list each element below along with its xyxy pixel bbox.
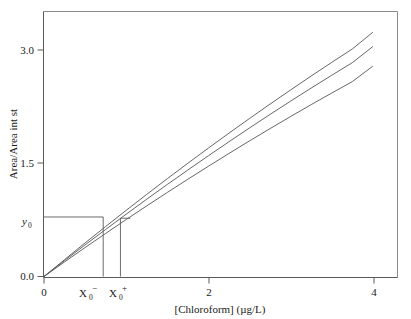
y-axis-title: Area/Area int st bbox=[7, 109, 19, 179]
x-axis-title: [Chloroform] (µg/L) bbox=[175, 303, 266, 316]
y0-tick-label: y bbox=[21, 215, 27, 227]
x0-minus-label: X bbox=[79, 287, 87, 299]
x-tick-label-4: 4 bbox=[371, 286, 377, 298]
x-tick-label-2: 2 bbox=[206, 286, 212, 298]
calibration-curve-chart: 3.0 1.5 0.0 y 0 0 2 4 X 0 − X 0 + [Chlor… bbox=[0, 0, 411, 319]
x-tick-label-0: 0 bbox=[41, 286, 47, 298]
y-tick-label-0.0: 0.0 bbox=[20, 270, 34, 282]
x0-plus-label-subscript: 0 bbox=[119, 293, 123, 302]
y0-tick-label-subscript: 0 bbox=[28, 221, 32, 230]
y-tick-label-1.5: 1.5 bbox=[20, 157, 34, 169]
x0-plus-label: X bbox=[109, 287, 117, 299]
y-tick-label-3.0: 3.0 bbox=[20, 44, 34, 56]
x0-plus-label-superscript: + bbox=[122, 283, 127, 293]
x0-minus-label-superscript: − bbox=[92, 283, 97, 293]
chart-background bbox=[0, 0, 411, 319]
chart-figure: 3.0 1.5 0.0 y 0 0 2 4 X 0 − X 0 + [Chlor… bbox=[0, 0, 411, 319]
x0-minus-label-subscript: 0 bbox=[89, 293, 93, 302]
